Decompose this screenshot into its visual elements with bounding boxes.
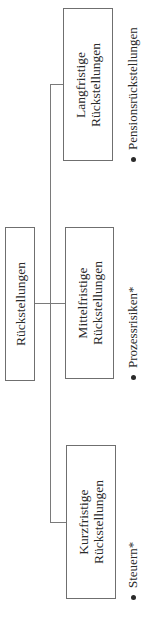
branch-langfristig bbox=[50, 84, 63, 85]
branch-kurzfristig bbox=[50, 522, 66, 523]
bullet-dot-icon bbox=[131, 157, 136, 162]
node-label: Langfristige Rückstellungen bbox=[73, 43, 103, 127]
bullet-steuern: Steuern* bbox=[126, 542, 140, 600]
node-mittelfristige: Mittelfristige Rückstellungen bbox=[65, 227, 114, 379]
node-langfristige: Langfristige Rückstellungen bbox=[63, 8, 113, 161]
bullet-dot-icon bbox=[131, 375, 136, 380]
node-label: Mittelfristige Rückstellungen bbox=[75, 261, 105, 345]
root-node: Rückstellungen bbox=[5, 227, 35, 381]
bullet-dot-icon bbox=[131, 595, 136, 600]
node-label: Kurzfristige Rückstellungen bbox=[76, 480, 106, 564]
bullet-pensionsrueckstellungen: Pensionsrückstellungen bbox=[126, 27, 140, 162]
root-label: Rückstellungen bbox=[13, 262, 28, 346]
bullet-prozessrisiken: Prozessrisiken* bbox=[126, 286, 140, 380]
node-kurzfristige: Kurzfristige Rückstellungen bbox=[66, 445, 116, 599]
root-connector bbox=[35, 303, 65, 304]
